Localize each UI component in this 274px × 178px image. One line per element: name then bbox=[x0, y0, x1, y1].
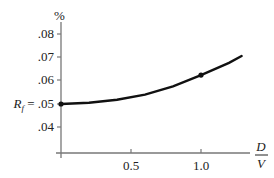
marked-points bbox=[58, 73, 203, 107]
data-point bbox=[198, 73, 203, 78]
y-tick-label: .04 bbox=[38, 119, 55, 134]
y-tick-label: .08 bbox=[38, 26, 54, 41]
rf-label-main: R bbox=[12, 96, 21, 111]
chart: % .08 .07 .06 Rf = .05 .04 0.5 1.0 D V bbox=[0, 0, 274, 178]
rf-label-eq: = .05 bbox=[24, 96, 54, 111]
x-axis-label: D V bbox=[255, 139, 268, 171]
y-tick-label: .07 bbox=[38, 49, 55, 64]
svg-text:D: D bbox=[255, 139, 266, 154]
x-tick-label: 1.0 bbox=[193, 158, 209, 173]
svg-text:V: V bbox=[257, 156, 267, 171]
data-point bbox=[58, 101, 63, 106]
y-axis-label: % bbox=[54, 8, 65, 23]
x-tick-label: 0.5 bbox=[123, 158, 139, 173]
y-tick-label: .06 bbox=[38, 72, 55, 87]
cost-curve bbox=[61, 56, 242, 104]
y-tick-label: Rf = .05 bbox=[12, 96, 54, 113]
